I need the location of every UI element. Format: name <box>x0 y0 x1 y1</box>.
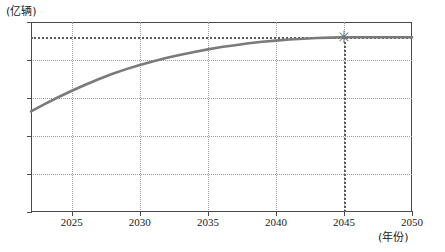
x-tick-label: 2040 <box>253 216 299 228</box>
x-tick-label: 2050 <box>389 216 435 228</box>
x-tick-label: 2045 <box>321 216 367 228</box>
chart-figure: (亿辆) 012345 202520302035204020452050 ✳ (… <box>0 0 445 252</box>
series-line-汽车保有量 <box>31 22 412 212</box>
x-tick-label: 2025 <box>49 216 95 228</box>
x-axis-unit-label: (年份) <box>378 228 409 244</box>
x-tick-label: 2035 <box>185 216 231 228</box>
y-tick-mark <box>27 212 32 213</box>
y-axis-unit-label: (亿辆) <box>6 2 37 18</box>
x-tick-label: 2030 <box>117 216 163 228</box>
plot-area: 012345 202520302035204020452050 ✳ <box>31 22 412 212</box>
